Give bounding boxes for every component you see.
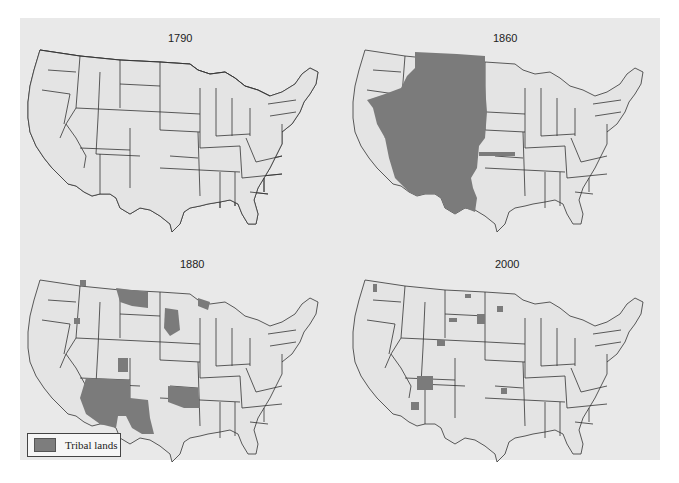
map-1790: 1790 bbox=[20, 28, 330, 238]
tribal-lands-swatch bbox=[34, 438, 56, 452]
map-year-label: 1790 bbox=[168, 32, 192, 44]
map-year-label: 1860 bbox=[493, 32, 517, 44]
map-1860: 1860 bbox=[345, 28, 655, 238]
map-year-label: 2000 bbox=[495, 258, 519, 270]
legend: Tribal lands bbox=[27, 433, 121, 457]
legend-label: Tribal lands bbox=[65, 439, 117, 451]
map-2000: 2000 bbox=[345, 258, 655, 468]
map-year-label: 1880 bbox=[180, 258, 204, 270]
